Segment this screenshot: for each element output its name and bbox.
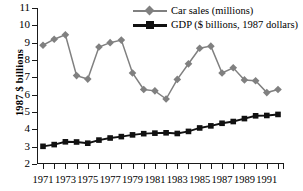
data-point-diamond: [218, 69, 226, 77]
legend-diamond-icon: [133, 4, 167, 17]
data-point-diamond: [207, 42, 215, 50]
y-tick-label: 4: [4, 123, 30, 134]
data-point-square: [152, 130, 158, 136]
data-point-diamond: [106, 39, 114, 47]
y-tick-label: 11: [4, 2, 30, 13]
data-point-diamond: [62, 31, 70, 39]
data-point-square: [85, 140, 91, 146]
data-point-diamond: [118, 36, 126, 44]
data-point-square: [96, 137, 102, 143]
legend-marker: [146, 21, 154, 29]
figure: 1987 $ billions 234567891011 19711973197…: [0, 0, 303, 191]
legend-item: GDP ($ billions, 1987 dollars): [133, 18, 298, 31]
data-point-diamond: [274, 86, 282, 94]
legend-square-icon: [133, 18, 167, 31]
data-point-square: [74, 139, 80, 145]
legend-item: Car sales (millions): [133, 4, 298, 17]
data-point-diamond: [50, 35, 58, 43]
data-point-diamond: [84, 75, 92, 83]
data-point-square: [242, 116, 248, 122]
y-tick: [32, 164, 37, 165]
legend-label: Car sales (millions): [171, 4, 253, 17]
data-point-square: [275, 112, 281, 118]
data-point-square: [197, 125, 203, 131]
data-point-square: [63, 139, 69, 145]
x-tick-label: 1991: [247, 174, 287, 185]
y-tick-label: 6: [4, 89, 30, 100]
data-point-diamond: [39, 41, 47, 49]
y-tick-label: 2: [4, 158, 30, 169]
data-point-diamond: [95, 43, 103, 51]
data-point-square: [51, 142, 57, 148]
data-point-square: [264, 113, 270, 119]
data-point-square: [253, 113, 259, 119]
caption-sliver: [0, 185, 303, 191]
data-point-square: [219, 120, 225, 126]
y-tick-label: 3: [4, 141, 30, 152]
y-tick-label: 10: [4, 19, 30, 30]
legend: Car sales (millions)GDP ($ billions, 198…: [133, 4, 298, 32]
data-point-square: [107, 135, 113, 141]
data-point-square: [130, 132, 136, 138]
data-point-square: [119, 134, 125, 140]
legend-label: GDP ($ billions, 1987 dollars): [171, 18, 298, 31]
data-point-square: [208, 123, 214, 129]
data-point-square: [186, 129, 192, 135]
legend-marker: [145, 6, 155, 16]
data-point-square: [40, 144, 46, 150]
data-point-square: [163, 130, 169, 136]
data-point-square: [141, 131, 147, 137]
data-point-square: [230, 119, 236, 125]
y-tick-label: 7: [4, 71, 30, 82]
y-tick-label: 9: [4, 37, 30, 48]
y-tick-label: 8: [4, 54, 30, 65]
data-point-square: [174, 131, 180, 137]
y-tick-label: 5: [4, 106, 30, 117]
data-point-diamond: [73, 72, 81, 80]
series-line: [43, 35, 278, 99]
